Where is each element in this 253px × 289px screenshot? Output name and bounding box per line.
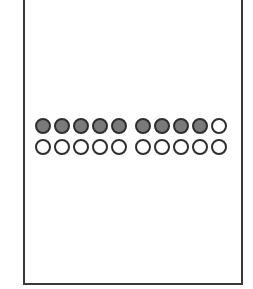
counter-group bbox=[135, 139, 227, 155]
filled-circle-icon bbox=[54, 118, 70, 134]
empty-circle-icon bbox=[154, 139, 170, 155]
empty-circle-icon bbox=[54, 139, 70, 155]
filled-circle-icon bbox=[154, 118, 170, 134]
filled-circle-icon bbox=[192, 118, 208, 134]
filled-circle-icon bbox=[35, 118, 51, 134]
counter-row bbox=[35, 118, 227, 134]
counter-row bbox=[35, 139, 227, 155]
filled-circle-icon bbox=[111, 118, 127, 134]
empty-circle-icon bbox=[73, 139, 89, 155]
filled-circle-icon bbox=[73, 118, 89, 134]
counter-group bbox=[135, 118, 227, 134]
empty-circle-icon bbox=[173, 139, 189, 155]
filled-circle-icon bbox=[173, 118, 189, 134]
empty-circle-icon bbox=[111, 139, 127, 155]
empty-circle-icon bbox=[35, 139, 51, 155]
filled-circle-icon bbox=[135, 118, 151, 134]
empty-circle-icon bbox=[211, 139, 227, 155]
empty-circle-icon bbox=[92, 139, 108, 155]
filled-circle-icon bbox=[92, 118, 108, 134]
counter-group bbox=[35, 139, 127, 155]
empty-circle-icon bbox=[211, 118, 227, 134]
empty-circle-icon bbox=[135, 139, 151, 155]
counter-group bbox=[35, 118, 127, 134]
empty-circle-icon bbox=[192, 139, 208, 155]
counter-grid bbox=[35, 118, 227, 155]
